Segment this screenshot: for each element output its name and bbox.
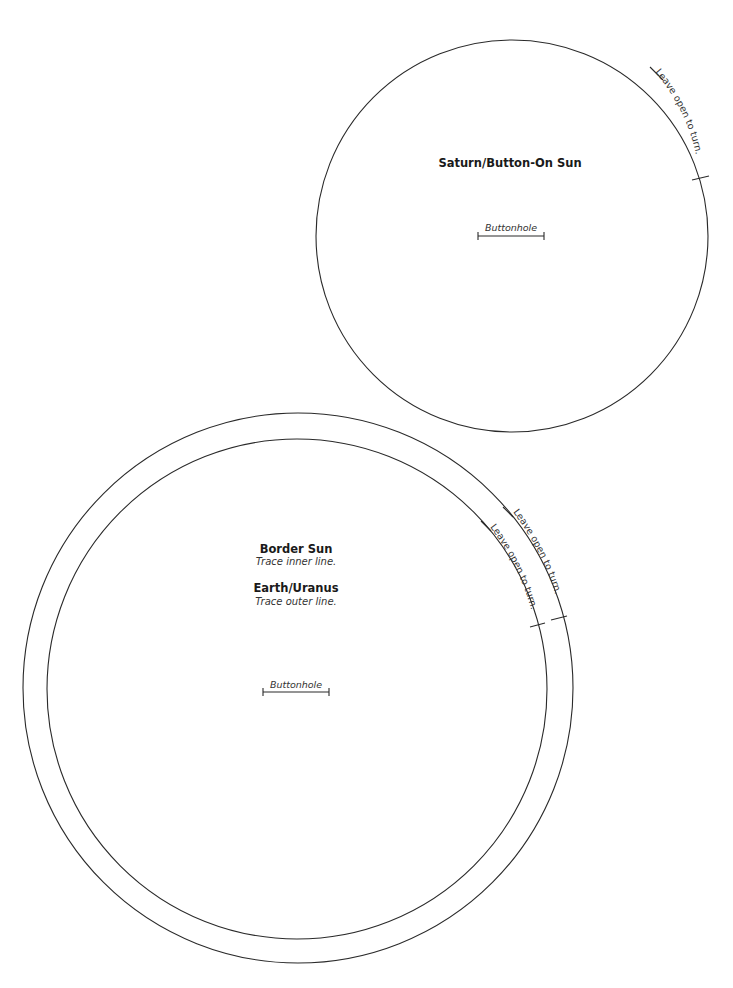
pattern-sheet: Leave open to turn. Saturn/Button-On Sun… — [0, 0, 733, 988]
saturn-piece: Leave open to turn. Saturn/Button-On Sun… — [316, 40, 709, 432]
opening-end-mark — [692, 176, 709, 180]
border-sun-instruction: Trace inner line. — [256, 556, 337, 567]
buttonhole-label: Buttonhole — [270, 679, 322, 690]
saturn-title: Saturn/Button-On Sun — [438, 156, 581, 170]
buttonhole-mark — [478, 232, 544, 240]
inner-opening-end-mark — [530, 623, 545, 627]
earth-uranus-title: Earth/Uranus — [253, 581, 338, 595]
earth-uranus-instruction: Trace outer line. — [255, 596, 336, 607]
border-sun-title: Border Sun — [260, 542, 333, 556]
border-earth-piece: Leave open to turn. Leave open to turn. … — [23, 413, 573, 963]
opening-note: Leave open to turn. — [653, 66, 704, 155]
buttonhole-label: Buttonhole — [485, 222, 537, 233]
outer-opening-note: Leave open to turn. — [511, 507, 564, 596]
outer-opening-start-mark — [503, 507, 513, 517]
